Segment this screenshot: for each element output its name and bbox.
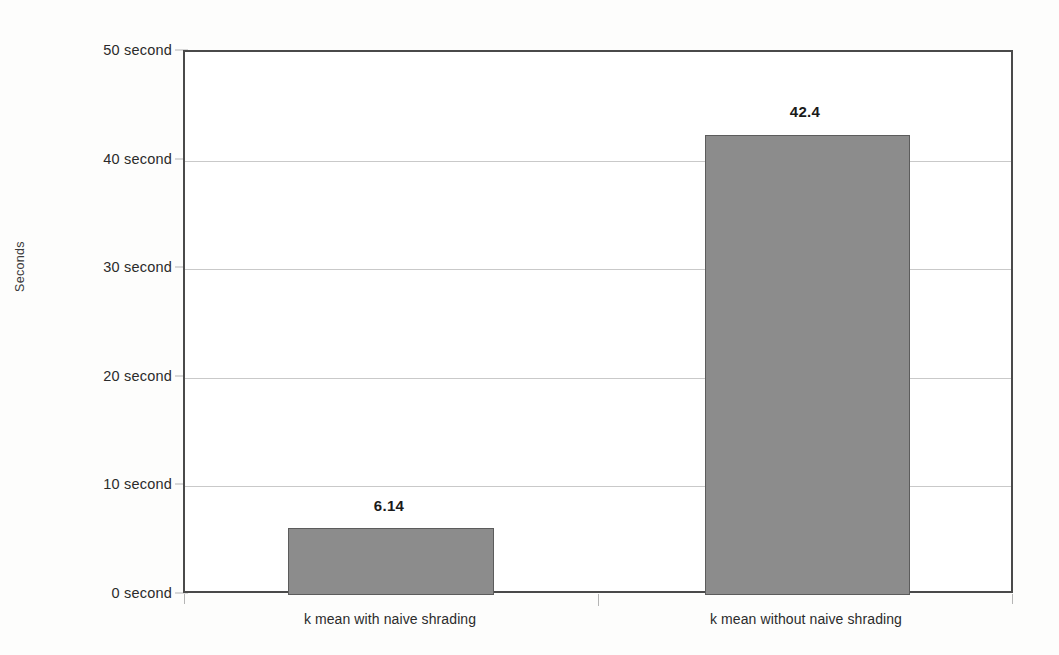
bar-value-label-1: 6.14: [374, 497, 404, 514]
y-tick-label-20: 20 second: [103, 368, 172, 384]
x-category-label-2: k mean without naive shrading: [710, 611, 902, 627]
x-axis-right-end-tick: [1012, 594, 1013, 604]
y-tick-label-10: 10 second: [103, 476, 172, 492]
y-tick-label-50: 50 second: [103, 42, 172, 58]
bar-k-mean-without-naive-shrading: [705, 135, 910, 595]
y-tick-label-0: 0 second: [112, 585, 172, 601]
chart-page: Seconds 50 second 40 second 30 second 20…: [0, 0, 1059, 655]
x-axis-category-separator-tick: [598, 594, 599, 606]
plot-area: [183, 50, 1013, 593]
bar-k-mean-with-naive-shrading: [288, 528, 494, 595]
y-tick-label-40: 40 second: [103, 151, 172, 167]
x-category-label-1: k mean with naive shrading: [304, 611, 476, 627]
x-axis-left-end-tick: [184, 594, 185, 604]
bar-value-label-2: 42.4: [790, 103, 820, 120]
y-tick-label-30: 30 second: [103, 259, 172, 275]
y-axis-tick-labels: 50 second 40 second 30 second 20 second …: [0, 0, 172, 655]
